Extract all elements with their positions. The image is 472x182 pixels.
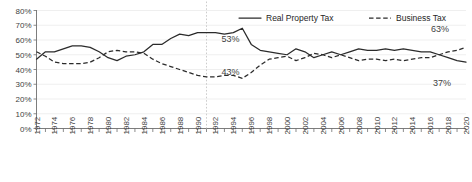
y-axis-tick-label: 0% [20,125,32,134]
x-axis-tick-label: 1980 [104,116,113,134]
y-axis-tick-label: 80% [15,7,31,16]
x-axis-tick-label: 1986 [158,116,167,134]
series-line-business-tax [37,47,467,78]
x-axis-tick-label: 2004 [319,116,328,134]
y-axis-labels: 80%70%60%50%40%30%20%10%0% [15,7,36,134]
data-series [37,28,467,78]
x-axis-tick-label: 1988 [176,116,185,134]
y-axis-tick-label: 20% [15,95,31,104]
x-axis-tick-label: 2010 [373,116,382,134]
x-axis-tick-label: 1996 [247,116,256,134]
annotation-label: 63% [431,24,449,34]
line-chart: 80%70%60%50%40%30%20%10%0% 1972197419761… [0,0,472,182]
x-axis-tick-label: 2002 [301,116,310,134]
x-axis-tick-label: 1976 [68,116,77,134]
chart-legend: Real Property TaxBusiness Tax [239,13,447,23]
x-axis-tick-label: 2008 [355,116,364,134]
gridlines [37,11,467,114]
legend-label-real-property-tax: Real Property Tax [266,13,334,23]
x-axis-tick-label: 2020 [462,116,471,134]
y-axis-tick-label: 60% [15,36,31,45]
y-axis-tick-label: 40% [15,66,31,75]
x-axis-tick-label: 1982 [122,116,131,134]
x-axis-tick-label: 1984 [140,116,149,134]
legend-label-business-tax: Business Tax [396,13,447,23]
y-axis-tick-label: 30% [15,80,31,89]
x-axis-tick-label: 2006 [337,116,346,134]
y-axis-tick-label: 50% [15,51,31,60]
y-axis-tick-label: 10% [15,110,31,119]
x-axis-tick-label: 2016 [426,116,435,134]
chart-container: 80%70%60%50%40%30%20%10%0% 1972197419761… [0,0,472,182]
x-axis-tick-label: 2014 [408,116,417,134]
annotation-label: 53% [221,34,239,44]
x-axis-labels: 1972197419761978198019821984198619881990… [33,116,472,134]
x-axis-tick-label: 1978 [86,116,95,134]
x-axis-tick-label: 1994 [229,116,238,134]
x-axis-tick-label: 2000 [283,116,292,134]
series-line-real-property-tax [37,28,467,62]
x-axis-tick-label: 2012 [390,116,399,134]
x-axis-tick-label: 1990 [194,116,203,134]
x-axis-tick-label: 1992 [211,116,220,134]
x-axis-tick-label: 1998 [265,116,274,134]
annotation-label: 43% [221,67,239,77]
x-axis-tick-label: 1974 [50,116,59,134]
x-axis-tick-label: 2018 [444,116,453,134]
x-axis-tick-label: 1972 [33,116,42,134]
annotation-label: 37% [433,78,451,88]
y-axis-tick-label: 70% [15,21,31,30]
